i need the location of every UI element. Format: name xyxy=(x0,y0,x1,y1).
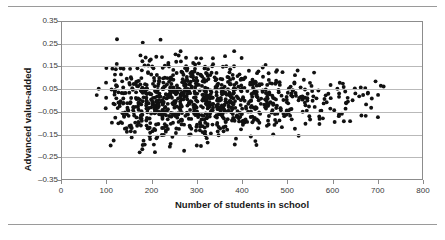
data-point xyxy=(154,99,158,103)
data-point xyxy=(138,116,142,120)
data-point xyxy=(151,129,155,133)
data-point xyxy=(351,98,355,102)
data-point xyxy=(172,106,176,110)
data-point xyxy=(118,104,122,108)
data-point xyxy=(201,106,205,110)
data-point xyxy=(357,94,361,98)
data-point xyxy=(342,119,346,123)
data-point xyxy=(165,83,169,87)
y-tick-label: –0.25 xyxy=(22,153,58,161)
data-point xyxy=(140,59,144,63)
data-point xyxy=(185,75,189,79)
data-point xyxy=(194,56,198,60)
data-point xyxy=(376,115,380,119)
data-point xyxy=(146,126,150,130)
data-point xyxy=(293,73,297,77)
data-point xyxy=(315,96,319,100)
data-point xyxy=(115,62,119,66)
data-point xyxy=(169,82,173,86)
data-point xyxy=(139,54,143,58)
data-point xyxy=(199,56,203,60)
data-point xyxy=(134,90,138,94)
data-point xyxy=(222,129,226,133)
data-point xyxy=(154,55,158,59)
data-point xyxy=(250,104,254,108)
data-point xyxy=(294,91,298,95)
data-point xyxy=(231,73,235,77)
data-point xyxy=(210,71,214,75)
data-point xyxy=(104,81,108,85)
data-point xyxy=(169,122,173,126)
data-point xyxy=(198,122,202,126)
data-point xyxy=(203,130,207,134)
x-tick-label: 700 xyxy=(358,186,398,195)
data-point xyxy=(305,99,309,103)
data-point xyxy=(129,77,133,81)
data-point xyxy=(266,97,270,101)
data-point xyxy=(226,80,230,84)
data-point xyxy=(223,54,227,58)
data-point xyxy=(204,102,208,106)
data-point xyxy=(119,99,123,103)
data-point xyxy=(341,82,345,86)
data-point xyxy=(290,117,294,121)
data-point xyxy=(162,96,166,100)
data-point xyxy=(140,113,144,117)
data-point xyxy=(182,149,186,153)
data-point xyxy=(318,122,322,126)
data-point xyxy=(272,102,276,106)
data-point xyxy=(104,106,108,110)
gridline-horizontal xyxy=(62,112,422,113)
data-point xyxy=(161,76,165,80)
data-point xyxy=(113,73,117,77)
data-point xyxy=(192,96,196,100)
data-point xyxy=(129,96,133,100)
data-point xyxy=(130,136,134,140)
data-point xyxy=(154,123,158,127)
y-tick-mark xyxy=(57,44,61,45)
data-point xyxy=(333,120,337,124)
data-point xyxy=(140,147,144,151)
data-point xyxy=(174,60,178,64)
data-point xyxy=(222,117,226,121)
x-axis-title: Number of students in school xyxy=(61,199,423,210)
data-point xyxy=(257,83,261,87)
data-point xyxy=(160,55,164,59)
data-point xyxy=(195,82,199,86)
data-point xyxy=(152,76,156,80)
gridline-horizontal xyxy=(62,44,422,45)
data-point xyxy=(211,123,215,127)
data-point xyxy=(182,80,186,84)
data-point xyxy=(188,124,192,128)
data-point xyxy=(194,129,198,133)
data-point xyxy=(280,94,284,98)
data-point xyxy=(147,101,151,105)
data-point xyxy=(181,97,185,101)
data-point xyxy=(199,144,203,148)
data-point xyxy=(239,103,243,107)
data-point xyxy=(255,143,259,147)
data-point xyxy=(256,126,260,130)
x-tick-label: 300 xyxy=(177,186,217,195)
data-point xyxy=(161,81,165,85)
data-point xyxy=(134,82,138,86)
data-point xyxy=(166,107,170,111)
data-point xyxy=(211,56,215,60)
data-point xyxy=(265,91,269,95)
data-point xyxy=(313,105,317,109)
data-point xyxy=(153,84,157,88)
data-point xyxy=(206,77,210,81)
y-tick-label: –0.15 xyxy=(22,131,58,139)
y-tick-label: 0.15 xyxy=(22,62,58,70)
data-point xyxy=(228,70,232,74)
data-point xyxy=(136,120,140,124)
data-point xyxy=(344,107,348,111)
data-point xyxy=(265,83,269,87)
data-point xyxy=(207,105,211,109)
data-point xyxy=(370,97,374,101)
data-point xyxy=(164,113,168,117)
data-point xyxy=(255,90,259,94)
data-point xyxy=(139,76,143,80)
data-point xyxy=(210,96,214,100)
data-point xyxy=(171,73,175,77)
